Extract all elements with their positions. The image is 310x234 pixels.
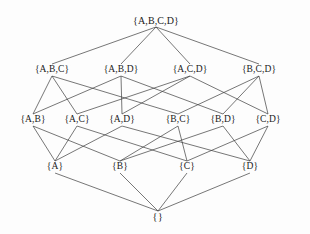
edge-abc-ab: [33, 76, 52, 114]
node-label-bc: {B,C}: [164, 115, 192, 125]
edge-abcd-abd: [121, 27, 156, 64]
node-label-c: {C}: [178, 162, 197, 172]
edge-acd-cd: [190, 76, 268, 114]
edge-a-empty: [55, 173, 158, 211]
edge-cd-c: [187, 126, 268, 161]
node-label-cd: {C,D}: [254, 115, 282, 125]
edge-ad-a: [55, 126, 122, 161]
edge-abd-ad: [121, 76, 122, 114]
node-label-a: {A}: [45, 162, 64, 172]
edge-acd-ad: [122, 76, 190, 114]
edge-abc-bc: [52, 76, 178, 114]
edge-bcd-bc: [178, 76, 259, 114]
node-label-acd: {A,C,D}: [171, 65, 209, 75]
edge-abd-ab: [33, 76, 121, 114]
node-label-b: {B}: [111, 162, 130, 172]
node-label-ab: {A,B}: [19, 115, 47, 125]
hasse-diagram: {A,B,C,D}{A,B,C}{A,B,D}{A,C,D}{B,C,D}{A,…: [0, 0, 310, 234]
edge-d-empty: [158, 173, 250, 211]
edge-bc-b: [120, 126, 178, 161]
node-label-abd: {A,B,D}: [102, 65, 140, 75]
node-label-abcd: {A,B,C,D}: [132, 16, 181, 26]
node-label-ad: {A,D}: [108, 115, 137, 125]
node-label-bd: {B,D}: [209, 115, 237, 125]
node-label-bcd: {B,C,D}: [240, 65, 277, 75]
node-label-ac: {A,C}: [63, 115, 91, 125]
edge-b-empty: [120, 173, 158, 211]
edge-ab-a: [33, 126, 55, 161]
edge-abcd-bcd: [156, 27, 259, 64]
node-label-abc: {A,B,C}: [33, 65, 70, 75]
edge-acd-ac: [77, 76, 190, 114]
edge-ac-a: [55, 126, 77, 161]
edge-abc-ac: [52, 76, 77, 114]
edge-bcd-cd: [259, 76, 268, 114]
edge-abcd-abc: [52, 27, 156, 64]
node-label-empty: {}: [151, 212, 165, 222]
edge-cd-d: [250, 126, 268, 161]
edge-abcd-acd: [156, 27, 190, 64]
edge-ab-b: [33, 126, 120, 161]
node-label-d: {D}: [240, 162, 259, 172]
